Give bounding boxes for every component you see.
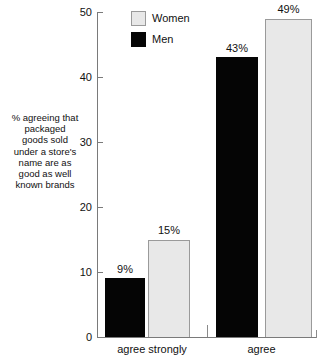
y-axis-line xyxy=(97,12,98,338)
y-axis-tick-10 xyxy=(97,272,103,273)
y-axis-title-line: good as well xyxy=(0,168,90,179)
x-axis-line xyxy=(97,337,316,338)
y-axis-label-40: 40 xyxy=(0,72,92,83)
bar-value-men-agree-strongly: 9% xyxy=(105,263,145,275)
legend-label: Men xyxy=(152,33,173,46)
legend-label: Women xyxy=(152,12,190,25)
women-swatch-icon xyxy=(131,11,146,26)
y-axis-tick-label: 30 xyxy=(0,137,92,148)
bar-value-men-agree: 43% xyxy=(216,42,258,54)
x-axis-end-tick xyxy=(316,330,317,338)
y-axis-label-20: 20 xyxy=(0,202,92,213)
y-axis-tick-label: 10 xyxy=(0,267,92,278)
x-axis-group-label-agree-strongly: agree strongly xyxy=(97,343,207,356)
y-axis-tick-40 xyxy=(97,77,103,78)
y-axis-tick-20 xyxy=(97,207,103,208)
y-axis-label-0: 0 xyxy=(0,332,92,343)
men-swatch-icon xyxy=(131,32,146,47)
y-axis-tick-label: 50 xyxy=(0,7,92,18)
bar-chart: % agreeing that packaged goods sold unde… xyxy=(0,0,320,364)
y-axis-tick-label: 20 xyxy=(0,202,92,213)
x-axis-group-separator-tick xyxy=(207,325,208,337)
y-axis-title-line: packaged xyxy=(0,123,90,134)
bar-men-agree-strongly[interactable] xyxy=(105,278,145,337)
y-axis-tick-label: 0 xyxy=(0,332,92,343)
y-axis-label-10: 10 xyxy=(0,267,92,278)
y-axis-label-30: 30 xyxy=(0,137,92,148)
bar-women-agree[interactable] xyxy=(265,19,312,338)
y-axis-tick-50 xyxy=(97,12,103,13)
y-axis-tick-label: 40 xyxy=(0,72,92,83)
y-axis-title-line: % agreeing that xyxy=(0,112,90,123)
y-axis-tick-30 xyxy=(97,142,103,143)
y-axis-title-line: name are as xyxy=(0,157,90,168)
bar-value-women-agree-strongly: 15% xyxy=(148,224,190,236)
x-axis-group-label-agree: agree xyxy=(207,343,316,356)
y-axis-title-line: known brands xyxy=(0,179,90,190)
y-axis-title: % agreeing that packaged goods sold unde… xyxy=(0,112,90,190)
bar-men-agree[interactable] xyxy=(216,57,258,338)
bar-value-women-agree: 49% xyxy=(265,3,312,15)
bar-women-agree-strongly[interactable] xyxy=(148,240,190,338)
y-axis-label-50: 50 xyxy=(0,7,92,18)
